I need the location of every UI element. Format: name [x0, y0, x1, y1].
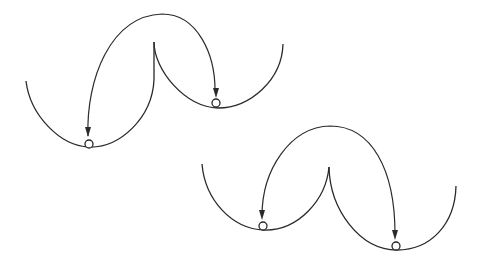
lower-left-well-curve [202, 164, 329, 230]
upper-double-well [26, 14, 283, 148]
double-well-diagram [0, 0, 479, 270]
lower-arrowhead-right-icon [392, 230, 398, 240]
upper-left-well-curve [26, 42, 154, 147]
lower-left-ball [259, 222, 267, 230]
lower-right-ball [392, 242, 400, 250]
upper-arrowhead-right-icon [213, 88, 219, 98]
lower-right-well-curve [329, 167, 456, 250]
lower-arrowhead-left-icon [259, 210, 265, 220]
lower-double-well [202, 126, 456, 250]
upper-right-well-curve [154, 42, 283, 108]
lower-arrows-arc [262, 126, 395, 234]
upper-right-ball [212, 99, 220, 107]
upper-left-ball [85, 140, 93, 148]
upper-arrow-to-left-well [88, 14, 215, 136]
upper-arrowhead-left-icon [85, 127, 91, 137]
